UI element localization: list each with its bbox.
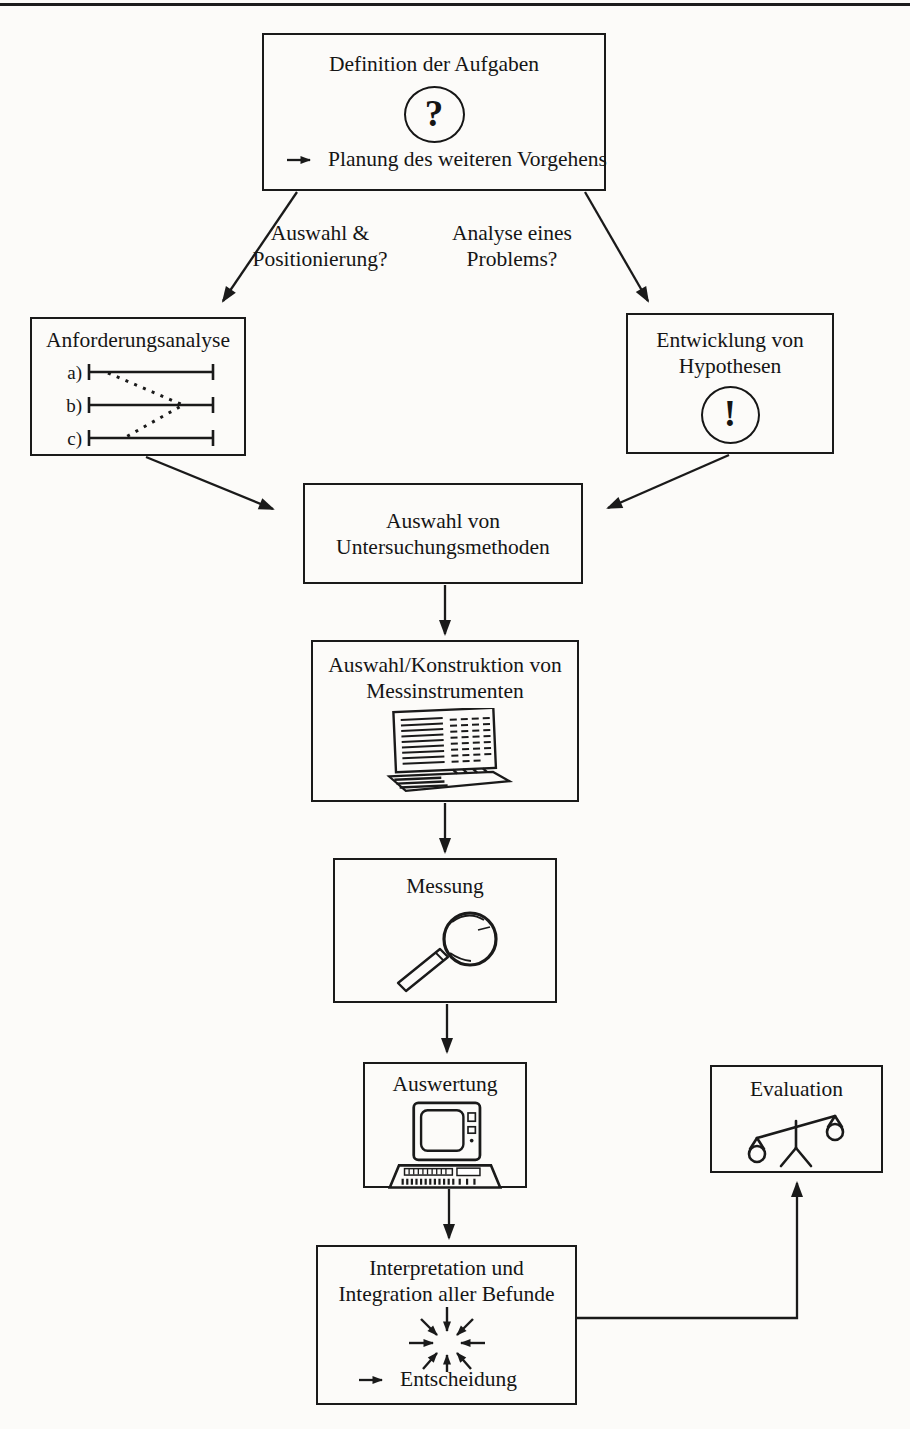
edge-hypothesen-to-untersuchung xyxy=(608,455,729,508)
exclamation-mark-icon: ! xyxy=(701,386,760,444)
branch-label-line: Auswahl & xyxy=(230,220,410,246)
branch-label-line: Analyse eines xyxy=(422,220,602,246)
node-note: Entscheidung xyxy=(358,1367,517,1392)
title-line: Untersuchungsmethoden xyxy=(305,534,581,560)
node-messung: Messung xyxy=(333,858,557,1003)
node-definition-der-aufgaben: Definition der Aufgaben ? Planung des we… xyxy=(262,33,606,191)
title-line: Entwicklung von xyxy=(628,327,832,353)
converging-arrows-icon xyxy=(392,1307,502,1373)
node-title: Interpretation und Integration aller Bef… xyxy=(318,1255,575,1307)
node-entwicklung-von-hypothesen: Entwicklung von Hypothesen ! xyxy=(626,313,834,454)
questionnaire-sheet-icon xyxy=(370,708,520,794)
branch-label-problem: Analyse eines Problems? xyxy=(422,220,602,272)
title-line: Auswahl/Konstruktion von xyxy=(313,652,577,678)
question-mark-icon: ? xyxy=(404,86,465,143)
node-title: Anforderungsanalyse xyxy=(32,327,244,353)
node-anforderungsanalyse: Anforderungsanalyse a) b) c) xyxy=(30,317,246,456)
title-line: Integration aller Befunde xyxy=(318,1281,575,1307)
node-auswahl-konstruktion-messinstrumente: Auswahl/Konstruktion von Messinstrumente… xyxy=(311,640,579,802)
node-title: Definition der Aufgaben xyxy=(264,51,604,77)
node-title: Auswertung xyxy=(365,1071,525,1097)
scale-item-label: a) xyxy=(67,362,82,384)
branch-label-line: Problems? xyxy=(422,246,602,272)
note-text: Entscheidung xyxy=(400,1367,517,1392)
node-evaluation: Evaluation xyxy=(710,1065,883,1173)
magnifier-icon xyxy=(370,903,520,998)
node-title: Auswahl von Untersuchungsmethoden xyxy=(305,508,581,560)
branch-label-line: Positionierung? xyxy=(230,246,410,272)
scale-item-label: b) xyxy=(66,395,82,417)
exclamation-glyph: ! xyxy=(724,395,736,432)
page-header-rule xyxy=(0,3,910,6)
edge-anforderung-to-untersuchung xyxy=(146,457,273,509)
node-title: Messung xyxy=(335,873,555,899)
title-line: Messinstrumenten xyxy=(313,678,577,704)
node-interpretation-integration: Interpretation und Integration aller Bef… xyxy=(316,1245,577,1405)
computer-icon xyxy=(377,1101,513,1193)
arrow-right-icon xyxy=(286,154,320,166)
scanned-book-page: Auswahl & Positionierung? Analyse eines … xyxy=(0,0,910,1429)
branch-label-selection: Auswahl & Positionierung? xyxy=(230,220,410,272)
node-auswahl-von-untersuchungsmethoden: Auswahl von Untersuchungsmethoden xyxy=(303,483,583,584)
balance-scales-icon xyxy=(737,1104,857,1168)
title-line: Interpretation und xyxy=(318,1255,575,1281)
scale-item-label: c) xyxy=(67,428,82,450)
question-mark-glyph: ? xyxy=(425,95,444,132)
node-title: Evaluation xyxy=(712,1076,881,1102)
arrow-right-icon xyxy=(358,1374,392,1386)
title-line: Hypothesen xyxy=(628,353,832,379)
node-auswertung: Auswertung xyxy=(363,1062,527,1188)
title-line: Auswahl von xyxy=(305,508,581,534)
node-title: Entwicklung von Hypothesen xyxy=(628,327,832,379)
node-note: Planung des weiteren Vorgehens xyxy=(286,147,607,172)
node-title: Auswahl/Konstruktion von Messinstrumente… xyxy=(313,652,577,704)
edge-interpretation-to-evaluation xyxy=(577,1183,797,1318)
requirement-profile-icon: a) b) c) xyxy=(32,357,248,455)
note-text: Planung des weiteren Vorgehens xyxy=(328,147,607,172)
